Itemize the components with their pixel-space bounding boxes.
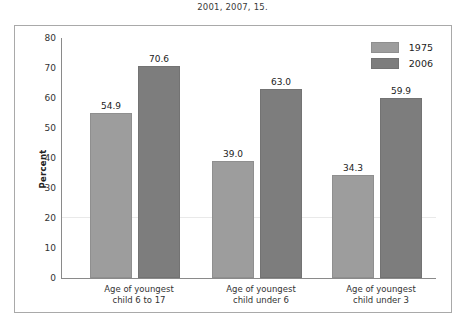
bar-value-label: 39.0 bbox=[223, 149, 243, 159]
bar-2006-group2[interactable]: 63.0 bbox=[260, 89, 302, 278]
figure-caption: 2001, 2007, 15. bbox=[0, 2, 465, 12]
y-tick-50: 50 bbox=[45, 123, 56, 133]
x-category-label-1: Age of youngest child 6 to 17 bbox=[74, 284, 204, 306]
legend-label-1975: 1975 bbox=[409, 42, 433, 53]
plot-area: 80 70 60 50 40 30 20 10 0 54.9 70.6 Age … bbox=[61, 38, 436, 279]
x-category-line-1: Age of youngest bbox=[196, 284, 326, 295]
bar-group-3: 34.3 59.9 Age of youngest child under 3 bbox=[316, 38, 446, 278]
bar-value-label: 70.6 bbox=[149, 54, 169, 64]
y-tick-30: 30 bbox=[45, 183, 56, 193]
x-category-line-2: child under 3 bbox=[316, 295, 446, 306]
bar-2006-group3[interactable]: 59.9 bbox=[380, 98, 422, 278]
y-tick-70: 70 bbox=[45, 63, 56, 73]
x-category-label-2: Age of youngest child under 6 bbox=[196, 284, 326, 306]
x-category-line-1: Age of youngest bbox=[74, 284, 204, 295]
legend-item-2006[interactable]: 2006 bbox=[371, 58, 433, 69]
y-tick-0: 0 bbox=[50, 273, 56, 283]
bar-value-label: 63.0 bbox=[271, 77, 291, 87]
bar-1975-group1[interactable]: 54.9 bbox=[90, 113, 132, 278]
x-category-line-2: child 6 to 17 bbox=[74, 295, 204, 306]
legend-item-1975[interactable]: 1975 bbox=[371, 42, 433, 53]
y-tick-40: 40 bbox=[45, 153, 56, 163]
chart-frame: Percent 80 70 60 50 40 30 20 10 0 54.9 7… bbox=[14, 25, 452, 313]
x-category-line-2: child under 6 bbox=[196, 295, 326, 306]
legend-label-2006: 2006 bbox=[409, 58, 433, 69]
y-tick-20: 20 bbox=[45, 213, 56, 223]
chart-legend: 1975 2006 bbox=[371, 42, 433, 69]
bar-group-1: 54.9 70.6 Age of youngest child 6 to 17 bbox=[74, 38, 204, 278]
bar-1975-group2[interactable]: 39.0 bbox=[212, 161, 254, 278]
bar-value-label: 54.9 bbox=[101, 101, 121, 111]
legend-swatch-icon bbox=[371, 42, 399, 53]
y-tick-80: 80 bbox=[45, 33, 56, 43]
y-tick-10: 10 bbox=[45, 243, 56, 253]
bar-2006-group1[interactable]: 70.6 bbox=[138, 66, 180, 278]
x-category-line-1: Age of youngest bbox=[316, 284, 446, 295]
y-tick-60: 60 bbox=[45, 93, 56, 103]
bar-value-label: 34.3 bbox=[343, 163, 363, 173]
legend-swatch-icon bbox=[371, 58, 399, 69]
bar-value-label: 59.9 bbox=[391, 86, 411, 96]
x-category-label-3: Age of youngest child under 3 bbox=[316, 284, 446, 306]
bar-group-2: 39.0 63.0 Age of youngest child under 6 bbox=[196, 38, 326, 278]
bar-1975-group3[interactable]: 34.3 bbox=[332, 175, 374, 278]
